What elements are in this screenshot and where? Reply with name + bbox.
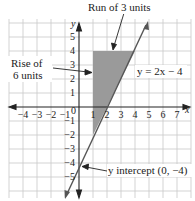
svg-text:x: x bbox=[184, 104, 190, 115]
svg-text:−4: −4 bbox=[64, 157, 75, 168]
svg-text:5: 5 bbox=[70, 31, 75, 42]
rise-annotation-line1: Rise of bbox=[11, 57, 43, 69]
svg-text:−3: −3 bbox=[32, 109, 43, 120]
equation-label: y = 2x − 4 bbox=[137, 65, 183, 77]
svg-text:2: 2 bbox=[70, 73, 75, 84]
svg-text:4: 4 bbox=[70, 45, 75, 56]
svg-text:7: 7 bbox=[175, 109, 180, 120]
svg-text:−2: −2 bbox=[46, 109, 57, 120]
intercept-label: y intercept (0, −4) bbox=[108, 164, 188, 177]
svg-text:−2: −2 bbox=[64, 129, 75, 140]
svg-text:5: 5 bbox=[147, 109, 152, 120]
svg-text:−4: −4 bbox=[18, 109, 29, 120]
svg-text:3: 3 bbox=[70, 59, 75, 70]
run-annotation: Run of 3 units bbox=[88, 1, 151, 13]
rise-annotation-line2: 6 units bbox=[13, 69, 43, 81]
svg-text:4: 4 bbox=[133, 109, 138, 120]
svg-text:y: y bbox=[70, 18, 76, 29]
svg-text:6: 6 bbox=[161, 109, 166, 120]
svg-text:3: 3 bbox=[119, 109, 124, 120]
graph: −4 −3 −2 −1 1 2 3 4 5 6 7 x 0 5 4 3 2 1 … bbox=[0, 0, 195, 201]
y-tick-labels: 5 4 3 2 1 −1 −2 −3 −4 −5 y bbox=[64, 18, 76, 182]
svg-text:1: 1 bbox=[91, 109, 96, 120]
svg-text:1: 1 bbox=[70, 87, 75, 98]
svg-text:2: 2 bbox=[105, 109, 110, 120]
svg-text:−5: −5 bbox=[64, 171, 75, 182]
svg-text:−1: −1 bbox=[64, 115, 75, 126]
svg-text:−3: −3 bbox=[64, 143, 75, 154]
